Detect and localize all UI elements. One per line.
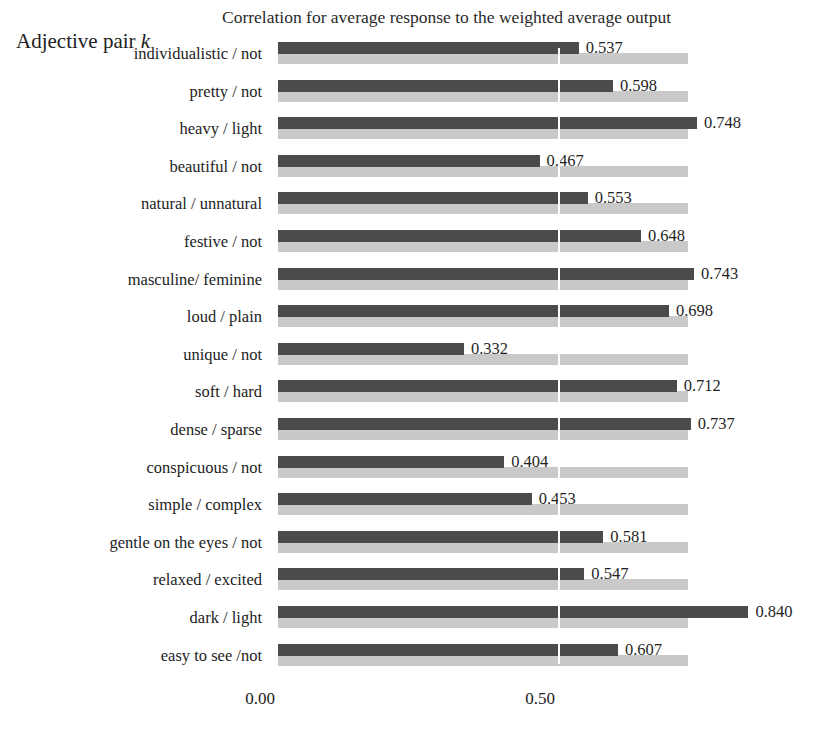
chart-row: conspicuous / not0.404: [0, 455, 819, 489]
bar-value-label: 0.743: [701, 263, 738, 285]
category-label: individualistic / not: [0, 43, 262, 65]
bar-group: 0.712: [278, 379, 798, 413]
chart-row: heavy / light0.748: [0, 116, 819, 150]
chart-row: pretty / not0.598: [0, 79, 819, 113]
x-tick-label: 0.00: [245, 688, 275, 710]
chart-row: dense / sparse0.737: [0, 417, 819, 451]
chart-row: masculine/ feminine0.743: [0, 267, 819, 301]
chart-row: festive / not0.648: [0, 229, 819, 263]
data-bar: [278, 380, 677, 392]
category-label: simple / complex: [0, 494, 262, 516]
bar-value-label: 0.332: [471, 338, 508, 360]
bar-value-label: 0.404: [511, 451, 548, 473]
category-label: soft / hard: [0, 381, 262, 403]
bar-track: [278, 467, 688, 478]
chart-row: soft / hard0.712: [0, 379, 819, 413]
bar-group: 0.332: [278, 342, 798, 376]
bar-value-label: 0.698: [676, 300, 713, 322]
category-label: loud / plain: [0, 306, 262, 328]
bar-track: [278, 279, 688, 290]
bar-group: 0.840: [278, 605, 798, 639]
chart-row: unique / not0.332: [0, 342, 819, 376]
chart-row: simple / complex0.453: [0, 492, 819, 526]
x-tick-label: 0.50: [525, 688, 555, 710]
bar-value-label: 0.748: [704, 112, 741, 134]
category-label: masculine/ feminine: [0, 269, 262, 291]
bar-track: [278, 241, 688, 252]
chart-row: beautiful / not0.467: [0, 154, 819, 188]
chart-row: loud / plain0.698: [0, 304, 819, 338]
x-axis: 0.000.50: [0, 688, 819, 728]
chart-row: relaxed / excited0.547: [0, 567, 819, 601]
chart-row: dark / light0.840: [0, 605, 819, 639]
category-label: conspicuous / not: [0, 457, 262, 479]
bar-group: 0.553: [278, 191, 798, 225]
bar-value-label: 0.537: [586, 37, 623, 59]
bar-track: [278, 504, 688, 515]
bar-value-label: 0.467: [547, 150, 584, 172]
bar-track: [278, 617, 688, 628]
data-bar: [278, 418, 691, 430]
category-label: easy to see /not: [0, 645, 262, 667]
bar-group: 0.547: [278, 567, 798, 601]
data-bar: [278, 192, 588, 204]
category-label: gentle on the eyes / not: [0, 532, 262, 554]
chart-row: individualistic / not0.537: [0, 41, 819, 75]
data-bar: [278, 155, 540, 167]
data-bar: [278, 531, 603, 543]
data-bar: [278, 230, 641, 242]
category-label: dark / light: [0, 607, 262, 629]
chart-row: natural / unnatural0.553: [0, 191, 819, 225]
bar-value-label: 0.598: [620, 75, 657, 97]
bar-group: 0.404: [278, 455, 798, 489]
data-bar: [278, 305, 669, 317]
bar-group: 0.748: [278, 116, 798, 150]
category-label: dense / sparse: [0, 419, 262, 441]
bar-value-label: 0.607: [625, 639, 662, 661]
data-bar: [278, 456, 504, 468]
data-bar: [278, 80, 613, 92]
category-label: beautiful / not: [0, 156, 262, 178]
bar-group: 0.581: [278, 530, 798, 564]
bar-track: [278, 391, 688, 402]
category-label: pretty / not: [0, 81, 262, 103]
data-bar: [278, 42, 579, 54]
data-bar: [278, 117, 697, 129]
bar-track: [278, 53, 688, 64]
bar-track: [278, 316, 688, 327]
bar-group: 0.607: [278, 643, 798, 677]
bar-group: 0.698: [278, 304, 798, 338]
bar-value-label: 0.648: [648, 225, 685, 247]
chart-row: easy to see /not0.607: [0, 643, 819, 677]
bar-group: 0.537: [278, 41, 798, 75]
data-bar: [278, 606, 748, 618]
bar-track: [278, 166, 688, 177]
category-label: unique / not: [0, 344, 262, 366]
chart-row: gentle on the eyes / not0.581: [0, 530, 819, 564]
bar-value-label: 0.581: [610, 526, 647, 548]
data-bar: [278, 268, 694, 280]
bar-group: 0.648: [278, 229, 798, 263]
category-label: natural / unnatural: [0, 193, 262, 215]
bar-group: 0.598: [278, 79, 798, 113]
category-label: festive / not: [0, 231, 262, 253]
bar-value-label: 0.547: [591, 563, 628, 585]
category-label: relaxed / excited: [0, 569, 262, 591]
data-bar: [278, 568, 584, 580]
plot-area: individualistic / not0.537pretty / not0.…: [0, 0, 819, 690]
data-bar: [278, 343, 464, 355]
category-label: heavy / light: [0, 118, 262, 140]
data-bar: [278, 493, 532, 505]
bar-value-label: 0.712: [684, 375, 721, 397]
bar-track: [278, 429, 688, 440]
bar-group: 0.737: [278, 417, 798, 451]
bar-group: 0.453: [278, 492, 798, 526]
data-bar: [278, 644, 618, 656]
bar-value-label: 0.840: [755, 601, 792, 623]
bar-value-label: 0.737: [698, 413, 735, 435]
gridline-0.50: [558, 48, 560, 664]
bar-value-label: 0.553: [595, 187, 632, 209]
bar-track: [278, 128, 688, 139]
bar-group: 0.467: [278, 154, 798, 188]
correlation-bar-chart: Adjective pair k Correlation for average…: [0, 0, 819, 737]
